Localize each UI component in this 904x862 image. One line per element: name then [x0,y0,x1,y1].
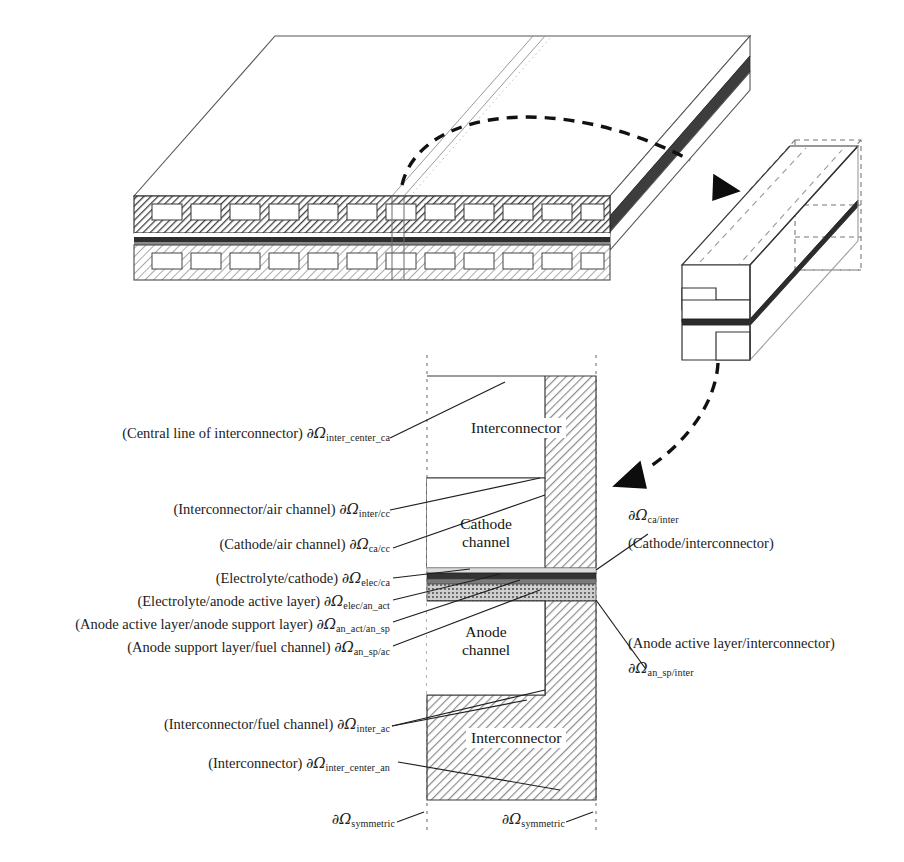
electrolyte-layer [427,573,596,579]
partial-omega-symbol: ∂Ω [342,570,362,586]
interconnector-top-label: Interconnector [466,418,566,438]
label-inter-center-an: (Interconnector) ∂Ωinter_center_an [0,755,390,773]
partial-omega-symbol: ∂Ω [502,811,522,827]
partial-omega-symbol: ∂Ω [332,811,352,827]
label-subscript: an_act/an_sp [336,623,390,634]
partial-omega-symbol: ∂Ω [628,507,648,523]
partial-omega-symbol: ∂Ω [628,660,648,676]
label-inter-center-ca: (Central line of interconnector) ∂Ωinter… [0,425,390,443]
label-inter-cc: (Interconnector/air channel) ∂Ωinter/cc [0,501,390,519]
stack-3d-view [134,36,750,280]
anode-channel-label: Anode channel [427,623,545,660]
partial-omega-symbol: ∂Ω [337,716,357,732]
partial-omega-symbol: ∂Ω [349,536,369,552]
label-subscript: inter/cc [359,508,390,519]
label-ca-inter-symbol: ∂Ωca/inter [628,507,679,525]
leader-symmetric-right [566,812,593,822]
label-subscript: symmetric [521,818,565,829]
label-subscript: symmetric [351,818,395,829]
label-symmetric-left: ∂Ωsymmetric [230,811,395,829]
label-symmetric-right: ∂Ωsymmetric [400,811,565,829]
partial-omega-symbol: ∂Ω [306,755,326,771]
label-subscript: ca/inter [648,514,679,525]
detail-3d-block [682,140,861,360]
label-subscript: an_sp/ac [354,646,390,657]
label-subscript: inter_ac [357,723,390,734]
label-subscript: inter_center_ca [326,432,390,443]
label-ca-inter-text: (Cathode/interconnector) [628,535,774,551]
cathode-channel-label: Cathode channel [427,515,545,552]
partial-omega-symbol: ∂Ω [339,501,359,517]
front-cathode-layer [134,233,610,237]
label-an-sp-inter-text: (Anode active layer/interconnector) [628,635,835,651]
callout-arrow-bottom [614,363,718,488]
partial-omega-symbol: ∂Ω [316,616,336,632]
label-subscript: inter_center_an [326,762,390,773]
interconnector-bottom-label: Interconnector [466,728,566,748]
front-electrolyte-layer [134,237,610,242]
label-subscript: an_sp/inter [648,667,694,678]
anode-support-layer [427,584,596,601]
label-elec-an-act: (Electrolyte/anode active layer) ∂Ωelec/… [0,593,390,611]
label-an-sp-ac: (Anode support layer/fuel channel) ∂Ωan_… [0,639,390,657]
label-elec-ca: (Electrolyte/cathode) ∂Ωelec/ca [0,570,390,588]
label-inter-ac: (Interconnector/fuel channel) ∂Ωinter_ac [0,716,390,734]
partial-omega-symbol: ∂Ω [334,639,354,655]
label-ca-cc: (Cathode/air channel) ∂Ωca/cc [0,536,390,554]
label-subscript: elec/ca [361,577,390,588]
partial-omega-symbol: ∂Ω [324,593,344,609]
label-an-act-an-sp: (Anode active layer/anode support layer)… [0,616,390,634]
label-an-sp-inter-symbol: ∂Ωan_sp/inter [628,660,694,678]
leader-an-sp-inter [596,600,645,668]
partial-omega-symbol: ∂Ω [307,425,327,441]
label-subscript: elec/an_act [343,600,390,611]
label-subscript: ca/cc [369,543,390,554]
detail-notch-lower [716,332,750,360]
